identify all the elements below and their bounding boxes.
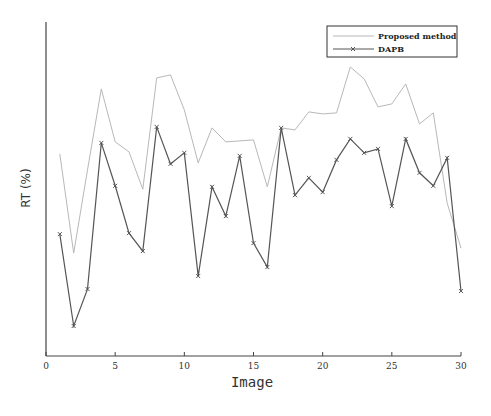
x-ticks: 051015202530 (43, 352, 467, 371)
series-dapb-line (60, 127, 461, 326)
x-tick-label: 30 (455, 361, 467, 371)
legend-label-proposed: Proposed method (378, 31, 457, 41)
legend: Proposed method DAPB (327, 26, 457, 57)
x-tick-label: 10 (179, 361, 191, 371)
x-tick-label: 15 (248, 361, 260, 371)
x-tick-label: 0 (43, 361, 49, 371)
axes-layer (46, 22, 461, 356)
x-tick-label: 20 (317, 361, 329, 371)
x-tick-label: 25 (386, 361, 398, 371)
legend-label-dapb: DAPB (378, 44, 404, 54)
x-tick-label: 5 (112, 361, 118, 371)
series-layer (58, 67, 463, 328)
x-marker-icon (307, 176, 311, 180)
y-axis-label: RT (%) (19, 168, 33, 207)
line-chart: 051015202530 Image RT (%) Proposed metho… (0, 0, 491, 416)
x-axis-label: Image (231, 374, 273, 390)
x-marker-icon (348, 137, 352, 141)
